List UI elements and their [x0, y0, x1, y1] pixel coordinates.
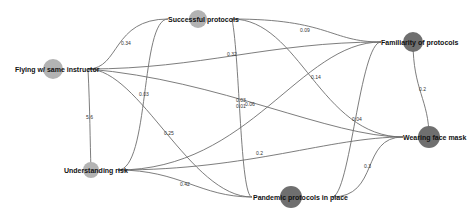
edge-label: 0.3: [364, 163, 371, 169]
node-understanding[interactable]: Understanding risk: [64, 162, 128, 178]
edge-label: 5.6: [86, 114, 93, 120]
nodes: Flying w/ same instructor Successful pro…: [15, 10, 466, 208]
node-label: Flying w/ same instructor: [15, 66, 100, 74]
node-flying[interactable]: Flying w/ same instructor: [15, 59, 100, 79]
network-diagram: 0.34 0.32 5.6 0.25 0.03 0.03 0.09 0.14 0…: [0, 0, 469, 215]
edge-label: 0.42: [180, 181, 190, 187]
node-label: Pandemic protocols in place: [253, 194, 348, 202]
edge-label: 0.14: [311, 74, 321, 80]
edge-label: 0.03: [139, 91, 149, 97]
edge-label: 0.06: [245, 101, 255, 107]
node-label: Familiarity of protocols: [381, 39, 459, 47]
edge-label: 0.34: [121, 40, 131, 46]
node-familiarity[interactable]: Familiarity of protocols: [381, 32, 459, 52]
edge-label: 0.2: [419, 86, 426, 92]
edge-label: 0.09: [300, 27, 310, 33]
node-label: Successful protocols: [168, 16, 239, 24]
node-label: Wearing face mask: [403, 134, 466, 142]
node-pandemic[interactable]: Pandemic protocols in place: [253, 186, 348, 208]
edge-label: 0.32: [227, 51, 237, 57]
edge-label: 0.2: [256, 150, 263, 156]
node-successful[interactable]: Successful protocols: [168, 10, 239, 28]
node-label: Understanding risk: [64, 167, 128, 175]
edges: [88, 19, 429, 197]
edge-label: 0.04: [352, 116, 362, 122]
node-mask[interactable]: Wearing face mask: [403, 126, 466, 148]
edge-label: 0.25: [164, 130, 174, 136]
edge-labels: 0.34 0.32 5.6 0.25 0.03 0.03 0.09 0.14 0…: [86, 27, 426, 187]
